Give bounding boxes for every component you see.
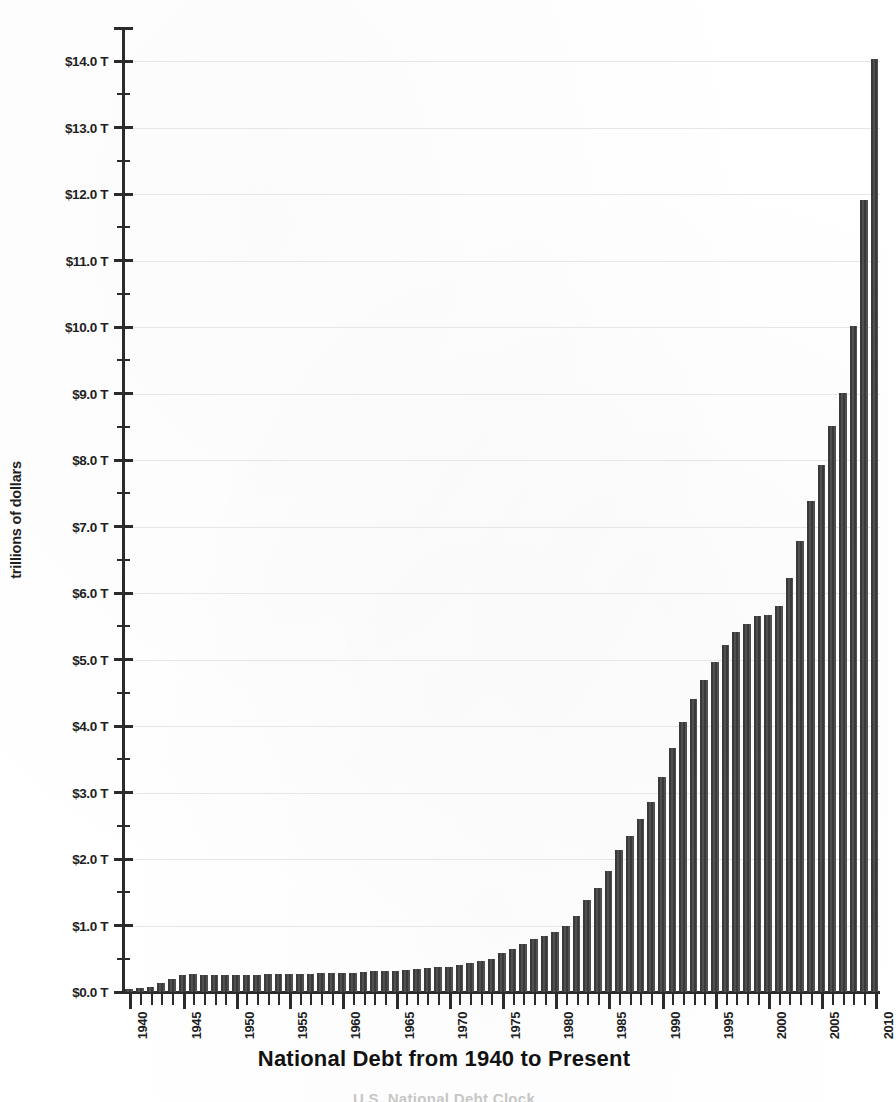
x-tick-1996 [726,992,728,1005]
x-tick-1986 [619,992,621,1005]
x-tick-1966 [406,992,408,1005]
bar-1975 [498,953,506,992]
bar-1972 [466,963,474,992]
x-tick-1942 [151,992,153,1005]
bar-1965 [392,971,400,992]
x-tick-1968 [427,992,429,1005]
plot-area [124,28,880,992]
x-tick-1992 [683,992,685,1005]
bar-1979 [541,936,549,993]
bar-1985 [605,871,613,992]
bar-1984 [594,888,602,992]
x-tick-1979 [545,992,547,1005]
x-tick-1995 [715,992,718,1009]
x-tick-1987 [630,992,632,1005]
x-tick-1993 [694,992,696,1005]
bar-1954 [275,974,283,992]
x-tick-label-1990: 1990 [668,1012,683,1039]
bar-1968 [424,968,432,992]
bar-1994 [700,680,708,992]
bar-1953 [264,974,272,992]
x-tick-1985 [608,992,611,1009]
bar-1966 [402,970,410,992]
bar-1974 [488,959,496,992]
x-tick-label-1955: 1955 [295,1012,310,1039]
chart-title: National Debt from 1940 to Present [0,1046,888,1072]
x-tick-label-2000: 2000 [774,1012,789,1039]
y-tick-label-10.0: $10.0 T [30,320,108,335]
x-tick-1952 [257,992,259,1005]
bar-1962 [360,972,368,992]
bar-1997 [732,632,740,992]
y-tick-label-1.0: $1.0 T [30,918,108,933]
x-tick-2007 [843,992,845,1005]
bar-1950 [232,975,240,992]
bar-1944 [168,979,176,992]
bar-1949 [221,975,229,992]
bar-2009 [860,200,868,992]
bar-1946 [189,974,197,992]
bar-1981 [562,926,570,992]
x-tick-1946 [193,992,195,1005]
bar-1992 [679,722,687,992]
x-tick-2000 [768,992,771,1009]
x-tick-1947 [204,992,206,1005]
x-tick-label-1980: 1980 [561,1012,576,1039]
bar-1980 [551,932,559,992]
bar-1996 [722,645,730,992]
bar-1955 [285,974,293,992]
bar-1969 [434,967,442,992]
bar-1978 [530,939,538,992]
bar-1952 [253,975,261,992]
bar-1959 [328,973,336,992]
x-tick-1963 [374,992,376,1005]
x-tick-2009 [864,992,866,1005]
bar-1977 [519,944,527,992]
x-tick-1974 [491,992,493,1005]
bar-1958 [317,973,325,992]
bar-1943 [157,983,165,992]
x-tick-label-2005: 2005 [827,1012,842,1039]
x-tick-label-1975: 1975 [508,1012,523,1039]
bar-1948 [211,975,219,992]
x-tick-1957 [310,992,312,1005]
bar-2010 [871,59,879,992]
x-tick-label-1940: 1940 [135,1012,150,1039]
x-tick-1950 [236,992,239,1009]
x-tick-1972 [470,992,472,1005]
y-tick-label-3.0: $3.0 T [30,785,108,800]
bar-1999 [754,616,762,992]
bar-2001 [775,606,783,992]
x-tick-1971 [459,992,461,1005]
x-tick-1964 [385,992,387,1005]
bar-1973 [477,961,485,992]
bar-1960 [338,973,346,992]
x-tick-2001 [779,992,781,1005]
y-tick-label-9.0: $9.0 T [30,386,108,401]
y-tick-label-0.0: $0.0 T [30,985,108,1000]
x-tick-1975 [502,992,505,1009]
x-tick-1969 [438,992,440,1005]
x-tick-1967 [417,992,419,1005]
bar-1961 [349,973,357,992]
bar-1998 [743,624,751,992]
x-tick-1977 [523,992,525,1005]
x-tick-1941 [140,992,142,1005]
x-tick-1970 [449,992,452,1009]
x-tick-1949 [225,992,227,1005]
x-tick-label-2010: 2010 [881,1012,896,1039]
bar-1988 [637,819,645,992]
x-tick-2010 [875,992,878,1009]
x-tick-2008 [853,992,855,1005]
bar-2007 [839,393,847,992]
y-tick-label-4.0: $4.0 T [30,719,108,734]
bar-1947 [200,975,208,992]
x-tick-2006 [832,992,834,1005]
bar-1982 [573,916,581,992]
x-tick-2003 [800,992,802,1005]
x-tick-label-1965: 1965 [402,1012,417,1039]
bar-1987 [626,836,634,992]
x-tick-1940 [129,992,132,1009]
bar-1983 [583,900,591,992]
